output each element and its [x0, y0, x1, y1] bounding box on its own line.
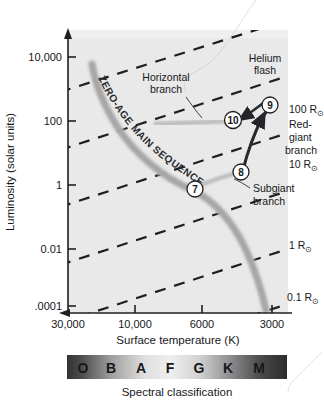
svg-text:100 R⊙: 100 R⊙: [289, 103, 324, 118]
y-tick-label-0.01: 0.01: [41, 243, 62, 255]
radius-label-01: 0.1 R⊙: [287, 291, 319, 306]
spectral-class-M: M: [253, 360, 265, 376]
svg-text:10 R⊙: 10 R⊙: [289, 158, 318, 173]
hr-diagram-figure: 10,000 100 1 0.01 .0001 30,000 10,000 60…: [0, 0, 324, 405]
sun-symbol-icon: ⊙: [317, 109, 324, 118]
spectral-class-K: K: [223, 360, 233, 376]
spectral-class-B: B: [106, 360, 116, 376]
x-tick-label-10000: 10,000: [118, 318, 152, 330]
sun-symbol-icon: ⊙: [311, 164, 318, 173]
subgiant-branch-label-line1: Subgiant: [253, 182, 295, 194]
svg-text:0.1 R⊙: 0.1 R⊙: [287, 291, 319, 306]
y-tick-label-0.0001: .0001: [34, 300, 62, 312]
hr-diagram-svg: 10,000 100 1 0.01 .0001 30,000 10,000 60…: [0, 0, 324, 405]
spectral-classification-caption: Spectral classification: [122, 386, 233, 398]
red-giant-branch-label-line2: giant: [289, 131, 312, 143]
horizontal-branch-path: [156, 121, 226, 124]
y-tick-label-100: 100: [44, 115, 62, 127]
radius-label-1-text: 1 R: [289, 239, 306, 251]
stage-point-9-label: 9: [267, 100, 273, 111]
helium-flash-label-line2: flash: [254, 64, 276, 76]
spectral-class-A: A: [136, 360, 146, 376]
sun-symbol-icon: ⊙: [305, 245, 312, 254]
red-giant-branch-label: Red- giant branch: [285, 118, 317, 156]
x-tick-label-6000: 6000: [190, 318, 214, 330]
stage-point-10-label: 10: [227, 115, 239, 126]
y-tick-label-1: 1: [56, 179, 62, 191]
horizontal-branch-label-line2: branch: [150, 83, 182, 95]
radius-label-01-text: 0.1 R: [287, 291, 313, 303]
x-tick-label-3000: 3000: [260, 318, 284, 330]
radius-label-10: 10 R⊙: [289, 158, 318, 173]
stage-point-10: 10: [225, 112, 242, 129]
y-tick-label-10000: 10,000: [28, 51, 62, 63]
helium-flash-label-line1: Helium: [249, 52, 282, 64]
stage-point-8-label: 8: [238, 167, 244, 178]
y-axis-title: Luminosity (solar units): [4, 113, 16, 231]
stage-point-7: 7: [187, 181, 203, 197]
radius-label-100: 100 R⊙: [289, 103, 324, 118]
spectral-class-O: O: [78, 360, 89, 376]
radius-label-100-text: 100 R: [289, 103, 317, 115]
stage-point-7-label: 7: [192, 184, 198, 195]
red-giant-branch-label-line3: branch: [285, 144, 317, 156]
stage-point-9: 9: [262, 97, 278, 113]
svg-text:1 R⊙: 1 R⊙: [289, 239, 312, 254]
page-curl-artifact-bottom: [288, 352, 322, 392]
x-axis-title: Surface temperature (K): [116, 334, 240, 346]
horizontal-branch-label-line1: Horizontal: [142, 71, 189, 83]
stage-point-8: 8: [233, 164, 249, 180]
subgiant-branch-label-line2: branch: [253, 195, 285, 207]
red-giant-branch-label-line1: Red-: [289, 118, 312, 130]
x-tick-label-30000: 30,000: [51, 318, 85, 330]
spectral-class-G: G: [194, 360, 205, 376]
sun-symbol-icon: ⊙: [312, 297, 319, 306]
radius-label-10-text: 10 R: [289, 158, 312, 170]
radius-label-1: 1 R⊙: [289, 239, 312, 254]
spectral-class-F: F: [166, 360, 175, 376]
